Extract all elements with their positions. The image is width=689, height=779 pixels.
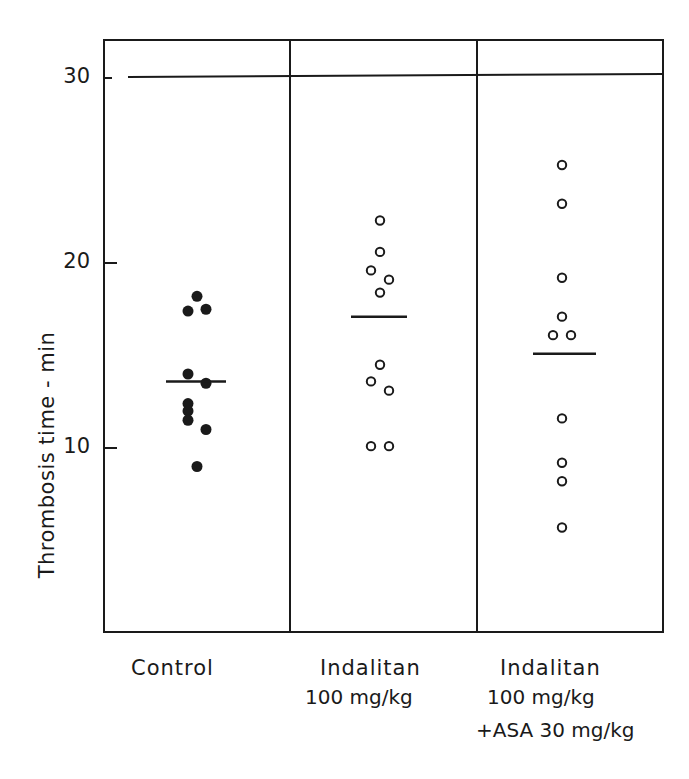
data-point <box>376 361 384 369</box>
data-point <box>558 414 566 422</box>
data-point <box>385 275 393 283</box>
data-point <box>192 291 203 302</box>
data-point <box>558 312 566 320</box>
data-point <box>367 442 375 450</box>
data-point <box>201 424 212 435</box>
data-point <box>558 161 566 169</box>
data-point <box>385 442 393 450</box>
data-point <box>558 274 566 282</box>
data-point <box>558 523 566 531</box>
data-point <box>183 415 194 426</box>
group-label-indalitan-asa-extra: +ASA 30 mg/kg <box>476 718 635 742</box>
data-point <box>558 477 566 485</box>
data-point <box>558 459 566 467</box>
y-tick-label-20: 20 <box>50 249 90 273</box>
data-point <box>567 331 575 339</box>
data-point <box>376 288 384 296</box>
group-label-indalitan-dose: 100 mg/kg <box>305 685 413 709</box>
group-label-indalitan: Indalitan <box>320 656 421 680</box>
mean-lines <box>166 317 596 382</box>
data-point <box>376 216 384 224</box>
data-point <box>183 306 194 317</box>
data-point <box>367 377 375 385</box>
data-point <box>183 369 194 380</box>
group-label-indalitan-asa: Indalitan <box>500 656 601 680</box>
group-label-control: Control <box>131 656 214 680</box>
data-point <box>201 378 212 389</box>
data-points <box>183 161 576 532</box>
y-axis-label: Thrombosis time - min <box>35 332 59 579</box>
data-point <box>385 386 393 394</box>
data-point <box>549 331 557 339</box>
y-tick-label-30: 30 <box>50 64 90 88</box>
group-label-indalitan-asa-dose: 100 mg/kg <box>487 685 595 709</box>
plot-frame <box>104 40 663 632</box>
data-point <box>201 304 212 315</box>
data-point <box>367 266 375 274</box>
reference-line-30-main <box>128 74 663 77</box>
data-point <box>376 248 384 256</box>
data-point <box>192 461 203 472</box>
data-point <box>558 200 566 208</box>
